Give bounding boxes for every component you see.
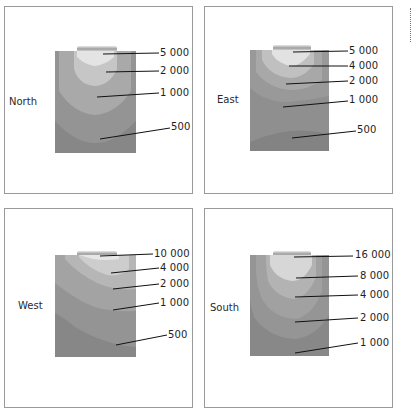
- contour-label-north-3: 1 000: [160, 87, 189, 98]
- contour-label-east-2: 4 000: [349, 60, 378, 71]
- contour-zones-north: [55, 51, 136, 153]
- contour-zones-south: [250, 255, 329, 356]
- contour-zones-east: [250, 50, 329, 151]
- contour-label-west-2: 4 000: [160, 262, 189, 273]
- panel-label-west: West: [18, 300, 43, 311]
- contour-label-west-4: 1 000: [160, 297, 189, 308]
- contour-label-east-1: 5 000: [349, 45, 378, 56]
- edge-text-fragment: [410, 8, 412, 42]
- panel-label-east: East: [217, 94, 239, 105]
- contour-label-south-1: 16 000: [355, 249, 391, 260]
- contour-label-west-5: 500: [168, 329, 187, 340]
- contour-label-east-3: 2 000: [349, 75, 378, 86]
- contour-label-south-2: 8 000: [360, 270, 389, 281]
- contour-block-west: [55, 255, 136, 357]
- contour-label-east-5: 500: [357, 124, 376, 135]
- panel-label-north: North: [9, 96, 37, 107]
- contour-label-west-1: 10 000: [154, 248, 190, 259]
- contour-block-east: [250, 50, 329, 151]
- panel-label-south: South: [210, 302, 239, 313]
- contour-label-east-4: 1 000: [349, 94, 378, 105]
- contour-label-south-4: 2 000: [360, 312, 389, 323]
- contour-block-south: [250, 255, 329, 356]
- contour-label-north-1: 5 000: [160, 47, 189, 58]
- contour-label-south-5: 1 000: [360, 337, 389, 348]
- contour-label-south-3: 4 000: [360, 289, 389, 300]
- contour-label-north-4: 500: [171, 121, 190, 132]
- contour-label-north-2: 2 000: [160, 65, 189, 76]
- contour-label-west-3: 2 000: [160, 278, 189, 289]
- contour-zones-west: [55, 255, 136, 357]
- contour-block-north: [55, 51, 136, 153]
